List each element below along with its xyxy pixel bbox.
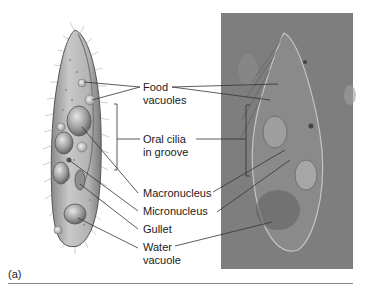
label-gullet: Gullet	[143, 223, 172, 236]
label-oral-cilia: Oral cilia in groove	[143, 133, 188, 159]
label-line: Water	[143, 241, 181, 254]
figure: Food vacuoles Oral cilia in groove Macro…	[0, 0, 369, 297]
panel-label: (a)	[8, 268, 21, 280]
label-food-vacuoles: Food vacuoles	[143, 81, 186, 107]
water-vacuole-shape	[64, 204, 86, 224]
label-line: Food	[143, 81, 186, 94]
micrograph	[221, 13, 356, 269]
label-micronucleus: Micronucleus	[143, 205, 208, 218]
label-line: in groove	[143, 146, 188, 159]
macronucleus-shape	[67, 106, 91, 136]
label-line: Macronucleus	[143, 187, 211, 200]
divider-rule	[8, 283, 353, 284]
label-line: Oral cilia	[143, 133, 188, 146]
label-line: vacuoles	[143, 94, 186, 107]
label-line: vacuole	[143, 254, 181, 267]
label-line: Micronucleus	[143, 205, 208, 218]
label-line: Gullet	[143, 223, 172, 236]
label-water-vacuole: Water vacuole	[143, 241, 181, 267]
label-macronucleus: Macronucleus	[143, 187, 211, 200]
